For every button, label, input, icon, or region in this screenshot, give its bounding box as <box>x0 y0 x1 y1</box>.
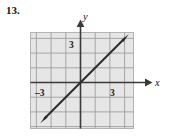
tick-label-y-positive-3: 3 <box>69 40 74 50</box>
y-axis-label: y <box>82 11 88 22</box>
x-axis-label: x <box>154 77 160 88</box>
tick-label-x-positive-3: 3 <box>110 88 115 98</box>
graph-svg: x y 3 –3 3 <box>0 0 171 138</box>
x-axis-arrow <box>145 79 153 87</box>
figure-container: 13. <box>0 0 171 138</box>
tick-label-x-negative-3: –3 <box>34 88 45 98</box>
